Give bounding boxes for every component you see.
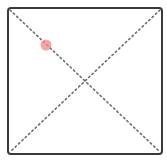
point-marker[interactable]: [41, 40, 52, 51]
diagram-svg: [0, 0, 167, 166]
diagram-canvas: [0, 0, 167, 166]
